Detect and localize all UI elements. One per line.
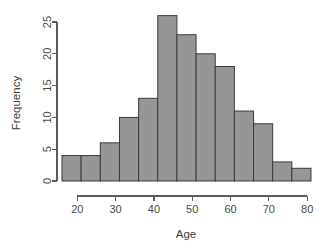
histogram-bar — [177, 35, 196, 181]
histogram-bar — [234, 111, 253, 181]
histogram-bar — [196, 54, 215, 181]
histogram-bar — [119, 117, 138, 181]
x-axis-title: Age — [176, 228, 196, 240]
y-axis-tick-label: 15 — [41, 79, 53, 91]
histogram-bar — [62, 156, 81, 181]
x-axis-tick-label: 40 — [148, 203, 160, 215]
y-axis-tick-label: 10 — [41, 111, 53, 123]
histogram-bar — [292, 168, 311, 181]
y-axis-tick-label: 5 — [41, 146, 53, 152]
y-axis-tick-label: 20 — [41, 48, 53, 60]
histogram-bar — [100, 143, 119, 181]
histogram-bar — [81, 156, 100, 181]
histogram-bar — [139, 98, 158, 181]
histogram-canvas: 0510152025 20304050607080 Frequency Age — [0, 0, 332, 249]
histogram-bar — [215, 67, 234, 181]
y-axis-title: Frequency — [10, 76, 22, 131]
histogram-bar — [158, 16, 177, 181]
y-axis-tick-label: 25 — [41, 16, 53, 28]
x-axis-tick-label: 70 — [263, 203, 275, 215]
histogram-bar — [254, 124, 273, 181]
x-axis-tick-label: 50 — [186, 203, 198, 215]
y-axis-tick-label: 0 — [41, 178, 53, 184]
x-axis-tick-label: 60 — [224, 203, 236, 215]
x-axis-tick-label: 30 — [110, 203, 122, 215]
x-axis-tick-label: 80 — [301, 203, 313, 215]
histogram-bar — [273, 162, 292, 181]
histogram-plot: 0510152025 20304050607080 Frequency Age — [0, 0, 332, 249]
x-axis-tick-label: 20 — [71, 203, 83, 215]
